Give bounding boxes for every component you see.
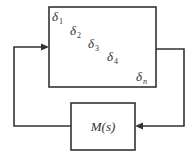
m-label: M(s): [90, 119, 116, 134]
delta-entry-3: δ 3: [88, 36, 99, 53]
feedback-diagram: δ 1 δ 2 δ 3 δ 4 δ n M(s): [0, 0, 193, 157]
delta-entry-2: δ 2: [70, 23, 81, 40]
svg-text:δ: δ: [107, 49, 114, 64]
svg-text:δ: δ: [136, 69, 143, 84]
delta-entry-n: δ n: [136, 69, 147, 86]
svg-text:2: 2: [77, 31, 81, 40]
arrow-into-delta-icon: [41, 44, 49, 51]
delta-entry-1: δ 1: [52, 9, 63, 26]
svg-text:3: 3: [95, 44, 99, 53]
svg-text:δ: δ: [88, 36, 95, 51]
svg-text:δ: δ: [52, 9, 59, 24]
svg-text:1: 1: [59, 17, 63, 26]
svg-text:δ: δ: [70, 23, 77, 38]
delta-entry-4: δ 4: [107, 49, 118, 66]
svg-text:4: 4: [114, 57, 118, 66]
arrow-into-m-icon: [135, 123, 143, 130]
svg-text:n: n: [143, 77, 147, 86]
